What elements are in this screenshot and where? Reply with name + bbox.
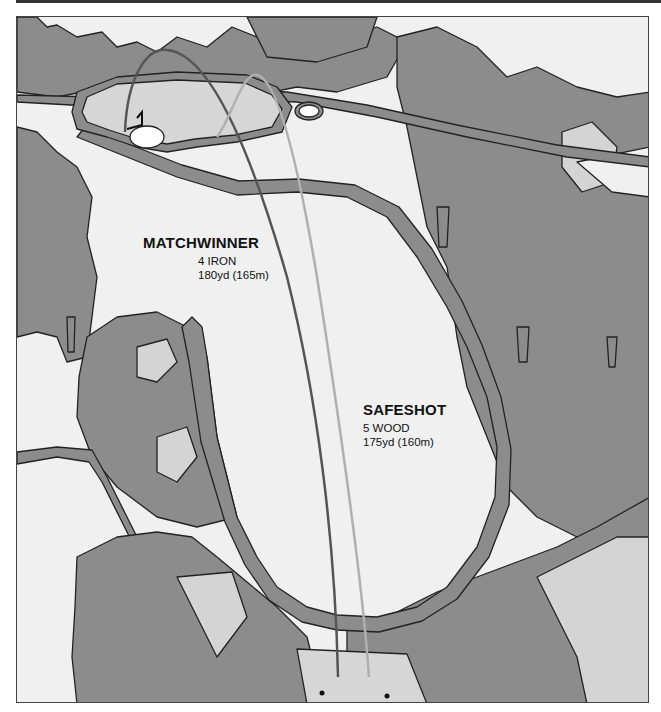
matchwinner-distance: 180yd (165m) [198, 268, 269, 282]
tree-trunk-right-1 [437, 207, 449, 247]
tee-box [297, 649, 427, 703]
matchwinner-title: MATCHWINNER [143, 234, 269, 251]
safeshot-distance: 175yd (160m) [363, 435, 446, 449]
tee-marker-right [385, 694, 390, 699]
tee-marker-left [320, 691, 325, 696]
safeshot-club: 5 WOOD [363, 421, 446, 435]
matchwinner-label: MATCHWINNER 4 IRON 180yd (165m) [143, 234, 269, 282]
safeshot-title: SAFESHOT [363, 401, 446, 418]
matchwinner-club: 4 IRON [198, 254, 269, 268]
tree-trunk-right-2 [517, 327, 529, 362]
bunker-right-sand [299, 105, 319, 117]
tree-trunk-left [67, 317, 75, 352]
tree-trunk-right-3 [607, 337, 617, 367]
tree-cluster-left [17, 127, 97, 362]
header-rule [0, 0, 661, 6]
safeshot-label: SAFESHOT 5 WOOD 175yd (160m) [363, 401, 446, 449]
bunker-left [130, 126, 164, 148]
tree-cluster-right [397, 27, 649, 577]
course-map [17, 17, 649, 703]
hole-illustration: MATCHWINNER 4 IRON 180yd (165m) SAFESHOT… [16, 16, 649, 703]
tree-cluster-bottom-left [72, 532, 317, 703]
